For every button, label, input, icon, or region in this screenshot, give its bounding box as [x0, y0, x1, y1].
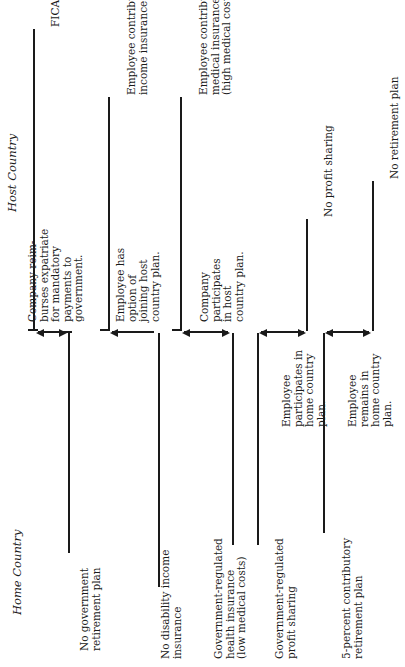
home-country-header: Home Country	[10, 530, 24, 615]
double-arrow-icon	[184, 331, 228, 333]
host-line	[33, 29, 35, 331]
host-label: No retirement plan	[366, 77, 405, 179]
home-label: No governmentretirement plan	[56, 567, 125, 651]
home-line	[68, 333, 70, 553]
host-label: No profit sharing	[300, 125, 358, 217]
home-label: Government-regulatedprofit sharing	[251, 538, 320, 659]
double-arrow-icon	[38, 331, 65, 333]
home-line	[158, 333, 160, 587]
action-label: Employeeremains inhome countryplan.	[324, 354, 405, 428]
action-label: Employee hasoption ofjoining hostcountry…	[92, 248, 184, 322]
host-label: FICA-type system	[27, 0, 85, 27]
arrow-icon	[112, 331, 154, 333]
host-country-header: Host Country	[5, 134, 19, 212]
host-line	[372, 181, 374, 331]
home-line	[232, 333, 234, 545]
host-line	[180, 97, 182, 331]
action-label: Companyparticipatesin hostcountry plan.	[176, 251, 268, 322]
host-line	[108, 97, 110, 331]
host-label: Employee contributorymedical insurance(h…	[175, 0, 256, 95]
double-arrow-icon	[327, 331, 369, 333]
double-arrow-icon	[261, 331, 304, 333]
host-label: Employee contributoryincome insurance pl…	[103, 0, 172, 95]
host-line	[306, 219, 308, 331]
home-label: 5-percent contributoryretirement plan	[318, 538, 387, 659]
